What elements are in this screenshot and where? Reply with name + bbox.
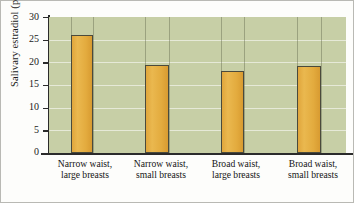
- x-category-label-0-line1: Narrow waist,: [49, 158, 121, 169]
- bar-narrow-waist-large-breasts: [71, 35, 93, 153]
- y-tick-label-10: 10: [13, 102, 39, 112]
- y-tick-label-25: 25: [13, 34, 39, 44]
- figure-frame: Salivary estradiol (pmol/liter) 30 25 20…: [0, 0, 354, 203]
- x-category-label-1-line2: small breasts: [125, 169, 197, 180]
- x-category-label-3: Broad waist, small breasts: [277, 158, 349, 181]
- category-separator-2: [93, 17, 94, 153]
- x-category-label-2: Broad waist, large breasts: [201, 158, 271, 181]
- category-separator-8: [321, 17, 322, 153]
- bar-narrow-waist-small-breasts: [145, 65, 169, 153]
- y-tick-label-30: 30: [13, 12, 39, 22]
- x-category-label-3-line1: Broad waist,: [277, 158, 349, 169]
- plot-area: [49, 17, 346, 153]
- x-category-label-0: Narrow waist, large breasts: [49, 158, 121, 181]
- y-tick-label-0: 0: [13, 147, 39, 157]
- x-category-label-1-line1: Narrow waist,: [125, 158, 197, 169]
- x-category-label-2-line1: Broad waist,: [201, 158, 271, 169]
- x-axis-line: [41, 153, 353, 155]
- x-category-label-2-line2: large breasts: [201, 169, 271, 180]
- category-separator-4: [169, 17, 170, 153]
- category-separator-6: [244, 17, 245, 153]
- bar-broad-waist-small-breasts: [297, 66, 321, 153]
- x-category-label-0-line2: large breasts: [49, 169, 121, 180]
- bar-broad-waist-large-breasts: [221, 71, 244, 154]
- x-category-label-3-line2: small breasts: [277, 169, 349, 180]
- x-category-label-1: Narrow waist, small breasts: [125, 158, 197, 181]
- y-tick-label-15: 15: [13, 79, 39, 89]
- y-tick-label-5: 5: [13, 125, 39, 135]
- y-tick-label-20: 20: [13, 57, 39, 67]
